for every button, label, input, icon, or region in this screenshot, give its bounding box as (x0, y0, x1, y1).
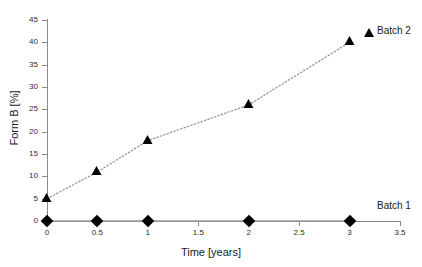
y-tick-mark (42, 65, 47, 66)
x-tick-label: 1.5 (178, 229, 218, 237)
y-tick-mark (42, 109, 47, 110)
y-tick-mark (42, 176, 47, 177)
x-tick-label: 2 (229, 229, 269, 237)
y-tick-label: 45 (12, 16, 38, 24)
legend-label-batch1: Batch 1 (377, 200, 411, 211)
y-axis-title: Form B [%] (8, 63, 20, 173)
data-point-marker (243, 99, 253, 108)
y-tick-mark (42, 132, 47, 133)
x-tick-mark (198, 221, 199, 226)
y-tick-label: 10 (12, 172, 38, 180)
data-point-marker (141, 215, 154, 228)
data-point-marker (142, 135, 152, 144)
y-tick-label: 5 (12, 195, 38, 203)
x-tick-label: 0.5 (77, 229, 117, 237)
y-axis-line (47, 19, 48, 222)
data-point-marker (242, 215, 255, 228)
x-tick-label: 0 (27, 229, 67, 237)
legend-triangle-icon (364, 28, 374, 37)
x-tick-mark (299, 221, 300, 226)
data-point-marker (42, 193, 52, 202)
legend-label-batch2: Batch 2 (377, 25, 411, 36)
y-tick-mark (42, 20, 47, 21)
data-point-marker (41, 215, 54, 228)
x-tick-label: 1 (128, 229, 168, 237)
y-tick-label: 0 (12, 217, 38, 225)
chart-figure: 05101520253035404500.511.522.533.5 Time … (0, 0, 422, 267)
x-tick-label: 2.5 (279, 229, 319, 237)
x-tick-label: 3 (330, 229, 370, 237)
x-tick-mark (400, 221, 401, 226)
series-lines (0, 0, 422, 267)
x-tick-label: 3.5 (380, 229, 420, 237)
data-point-marker (343, 215, 356, 228)
y-tick-label: 40 (12, 38, 38, 46)
data-point-marker (91, 215, 104, 228)
y-tick-mark (42, 87, 47, 88)
data-point-marker (344, 36, 354, 45)
x-axis-title: Time [years] (0, 246, 422, 258)
y-tick-mark (42, 42, 47, 43)
data-point-marker (92, 166, 102, 175)
batch2-line (47, 42, 350, 198)
y-tick-mark (42, 154, 47, 155)
